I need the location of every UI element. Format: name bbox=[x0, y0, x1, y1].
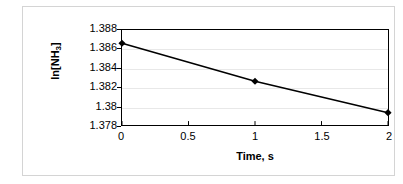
x-axis-tick-label: 1 bbox=[235, 130, 275, 142]
y-axis-tick-label: 1.382 bbox=[73, 81, 117, 92]
x-axis-tick-label: 2 bbox=[369, 130, 403, 142]
x-axis-tick-labels: 00.511.52 bbox=[121, 130, 389, 144]
data-point-marker bbox=[251, 78, 258, 85]
data-series bbox=[122, 30, 388, 125]
chart-container: ln[NH3] 1.3781.381.3821.3841.3861.388 00… bbox=[0, 0, 403, 184]
y-axis-tick-labels: 1.3781.381.3821.3841.3861.388 bbox=[69, 29, 117, 126]
y-axis-tick-label: 1.384 bbox=[73, 62, 117, 73]
y-axis-title-subscript: 3 bbox=[54, 46, 63, 50]
x-axis-tick-label: 0.5 bbox=[168, 130, 208, 142]
y-axis-tick-mark bbox=[117, 126, 121, 127]
y-axis-tick-label: 1.388 bbox=[73, 23, 117, 34]
chart-area: ln[NH3] 1.3781.381.3821.3841.3861.388 00… bbox=[22, 6, 395, 176]
x-axis-title: Time, s bbox=[121, 150, 389, 162]
plot-area bbox=[121, 29, 389, 126]
y-axis-title: ln[NH3] bbox=[49, 21, 61, 101]
data-point-marker bbox=[384, 109, 391, 116]
x-axis-tick-label: 1.5 bbox=[302, 130, 342, 142]
y-axis-tick-label: 1.38 bbox=[73, 101, 117, 112]
y-axis-tick-label: 1.386 bbox=[73, 42, 117, 53]
x-axis-tick-label: 0 bbox=[101, 130, 141, 142]
data-point-marker bbox=[118, 40, 125, 47]
y-axis-title-base: ln[NH bbox=[49, 50, 61, 79]
